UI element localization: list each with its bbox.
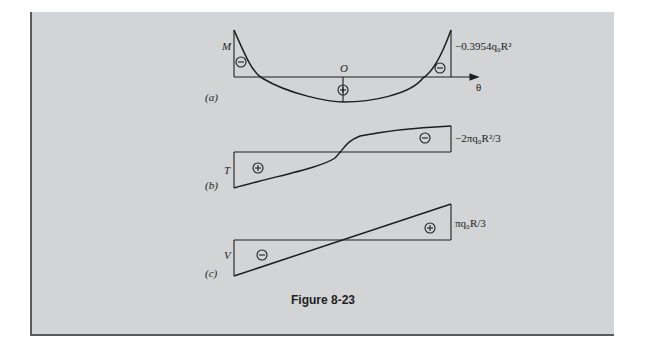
- label-V: V: [224, 249, 232, 261]
- tag-b: (b): [205, 179, 218, 192]
- tag-a: (a): [205, 91, 218, 104]
- label-origin: O: [340, 62, 348, 74]
- label-M: M: [221, 40, 232, 52]
- value-b: −2πq₀R²/3: [455, 132, 501, 144]
- torque-diagram: [234, 126, 451, 188]
- figure-8-23-diagram: M O θ (a) −0.3954q₀R² T (b) −2πq₀R²/3 V …: [0, 0, 646, 358]
- figure-caption: Figure 8-23: [291, 293, 355, 307]
- torque-curve: [234, 126, 451, 188]
- value-a: −0.3954q₀R²: [455, 40, 512, 52]
- tag-c: (c): [205, 267, 218, 280]
- label-T: T: [224, 164, 231, 176]
- label-theta: θ: [476, 81, 481, 93]
- shear-diagram: [234, 204, 451, 276]
- value-c: πq₀R/3: [455, 217, 486, 229]
- moment-diagram: [234, 30, 478, 102]
- axis-arrow-icon: [470, 74, 478, 80]
